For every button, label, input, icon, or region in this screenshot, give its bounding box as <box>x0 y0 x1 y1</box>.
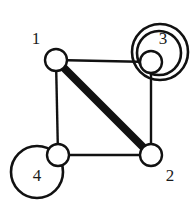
node-label-1: 1 <box>32 29 41 48</box>
node-label-2: 2 <box>166 166 175 185</box>
edge-1-4 <box>56 60 58 155</box>
edge-1-3 <box>56 60 151 62</box>
edge-1-2 <box>56 60 151 155</box>
graph-figure: 1342 <box>0 0 192 207</box>
node-4[interactable] <box>47 144 69 166</box>
edges-layer <box>56 60 151 155</box>
node-label-3: 3 <box>159 29 168 48</box>
node-2[interactable] <box>140 144 162 166</box>
node-3[interactable] <box>140 51 162 73</box>
graph-canvas: 1342 <box>0 0 192 207</box>
node-1[interactable] <box>45 49 67 71</box>
node-label-4: 4 <box>33 166 42 185</box>
